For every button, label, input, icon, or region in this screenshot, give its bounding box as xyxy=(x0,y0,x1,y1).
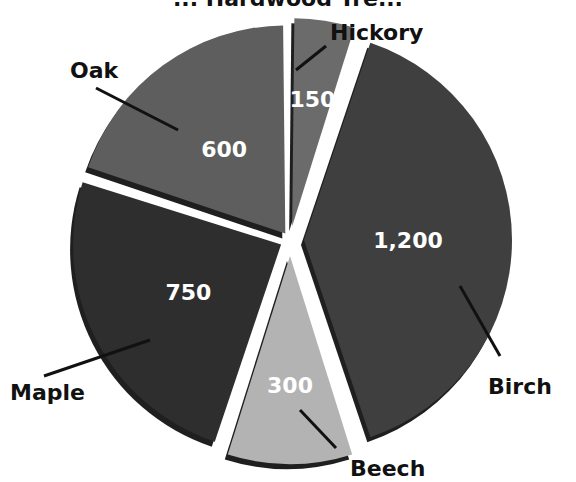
value-maple: 750 xyxy=(165,280,211,305)
pie-slices xyxy=(70,18,512,469)
value-beech: 300 xyxy=(267,373,313,398)
label-birch: Birch xyxy=(488,374,552,399)
label-maple: Maple xyxy=(10,380,85,405)
label-hickory: Hickory xyxy=(330,20,423,45)
pie-chart: ... Hardwood Tre... 1501,200300750600 Hi… xyxy=(0,0,576,482)
value-hickory: 150 xyxy=(289,87,335,112)
label-oak: Oak xyxy=(70,58,120,83)
label-beech: Beech xyxy=(350,456,425,481)
value-oak: 600 xyxy=(201,137,247,162)
value-birch: 1,200 xyxy=(373,228,443,253)
chart-title: ... Hardwood Tre... xyxy=(173,0,403,11)
